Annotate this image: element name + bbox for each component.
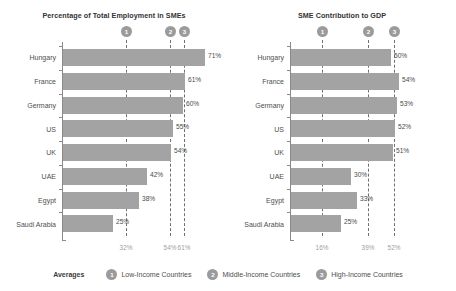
reference-marker-3-icon: 3 <box>389 26 400 37</box>
category-label-text: UAE <box>270 173 284 180</box>
bar-value-label: 33% <box>360 195 373 202</box>
category-label-text: US <box>46 126 56 133</box>
category-label-egypt: Egypt <box>0 189 56 213</box>
bar <box>291 215 341 232</box>
y-axis-tick <box>59 117 62 118</box>
x-tick-label-2: 39% <box>362 244 375 251</box>
bar <box>63 120 173 137</box>
category-label-text: Egypt <box>38 197 56 204</box>
legend-item-low-income: 1 Low-Income Countries <box>106 269 191 280</box>
category-label-text: Germany <box>27 102 56 109</box>
y-axis-tick <box>59 165 62 166</box>
bar <box>63 192 139 209</box>
bar-value-label: 54% <box>402 76 415 83</box>
bar <box>291 97 397 114</box>
reference-marker-3-icon: 3 <box>179 26 190 37</box>
bar-value-label: 30% <box>354 171 367 178</box>
bar-value-label: 52% <box>398 123 411 130</box>
category-label-text: Egypt <box>266 197 284 204</box>
bar-row: UAE30% <box>290 165 440 189</box>
category-label-germany: Germany <box>0 94 56 118</box>
y-axis-tick <box>287 70 290 71</box>
bar-row: Hungary50% <box>290 46 440 70</box>
y-axis-tick <box>59 94 62 95</box>
category-label-saudi-arabia: Saudi Arabia <box>160 212 284 236</box>
category-label-hungary: Hungary <box>160 46 284 70</box>
x-tick-label-2: 54% <box>164 244 177 251</box>
bar <box>291 73 399 90</box>
category-label-text: Germany <box>255 102 284 109</box>
legend-badge-3-icon: 3 <box>316 269 327 280</box>
y-axis-tick <box>59 189 62 190</box>
category-label-uk: UK <box>160 141 284 165</box>
bar-value-label: 38% <box>142 195 155 202</box>
x-tick-label-1: 16% <box>316 244 329 251</box>
category-label-uae: UAE <box>160 165 284 189</box>
y-axis-tick <box>59 46 62 47</box>
y-axis-tick <box>287 212 290 213</box>
category-label-text: UAE <box>42 173 56 180</box>
chart-panel-gdp: SME Contribution to GDP 116%239%352%Hung… <box>228 0 456 258</box>
category-label-germany: Germany <box>160 94 284 118</box>
legend-label-low-income: Low-Income Countries <box>121 271 191 278</box>
legend-title: Averages <box>53 271 84 278</box>
bar-value-label: 25% <box>344 218 357 225</box>
category-label-us: US <box>0 117 56 141</box>
bar <box>291 144 393 161</box>
reference-marker-2-icon: 2 <box>363 26 374 37</box>
category-label-egypt: Egypt <box>160 189 284 213</box>
bar-row: US52% <box>290 117 440 141</box>
category-label-text: Hungary <box>258 54 284 61</box>
legend-items-wrapper: Averages 1 Low-Income Countries 2 Middle… <box>53 269 403 280</box>
legend-item-high-income: 3 High-Income Countries <box>316 269 403 280</box>
y-axis-tick <box>287 165 290 166</box>
axis-baseline-tick <box>62 240 66 241</box>
bar-row: Germany53% <box>290 94 440 118</box>
axis-baseline-tick <box>290 240 294 241</box>
category-label-text: France <box>262 78 284 85</box>
category-label-uk: UK <box>0 141 56 165</box>
bar <box>63 215 113 232</box>
legend-badge-2-icon: 2 <box>207 269 218 280</box>
plot-area-gdp: 116%239%352%Hungary50%France54%Germany53… <box>290 46 440 236</box>
category-label-uae: UAE <box>0 165 56 189</box>
bar-value-label: 50% <box>394 52 407 59</box>
legend-badge-1-icon: 1 <box>106 269 117 280</box>
category-label-text: Saudi Arabia <box>16 221 56 228</box>
category-label-text: UK <box>46 149 56 156</box>
x-tick-label-3: 52% <box>388 244 401 251</box>
bar-row: UK51% <box>290 141 440 165</box>
chart-figure: Percentage of Total Employment in SMEs 1… <box>0 0 456 291</box>
bar <box>291 192 357 209</box>
bar <box>291 168 351 185</box>
y-axis-tick <box>59 212 62 213</box>
chart-panels: Percentage of Total Employment in SMEs 1… <box>0 0 456 258</box>
y-axis-tick <box>287 189 290 190</box>
category-label-text: UK <box>274 149 284 156</box>
bar-value-label: 53% <box>400 100 413 107</box>
y-axis-tick <box>59 141 62 142</box>
panel-title-employment: Percentage of Total Employment in SMEs <box>0 11 228 20</box>
x-tick-label-1: 32% <box>120 244 133 251</box>
category-label-text: France <box>34 78 56 85</box>
reference-marker-2-icon: 2 <box>165 26 176 37</box>
category-label-text: Hungary <box>30 54 56 61</box>
y-axis-tick <box>287 117 290 118</box>
legend-item-middle-income: 2 Middle-Income Countries <box>207 269 300 280</box>
bar-row: Saudi Arabia25% <box>290 212 440 236</box>
category-label-france: France <box>0 70 56 94</box>
reference-marker-1-icon: 1 <box>317 26 328 37</box>
y-axis-tick <box>287 46 290 47</box>
category-label-text: Saudi Arabia <box>244 221 284 228</box>
bar-value-label: 25% <box>116 218 129 225</box>
y-axis-tick <box>287 94 290 95</box>
y-axis-tick <box>59 70 62 71</box>
category-label-text: US <box>274 126 284 133</box>
category-label-hungary: Hungary <box>0 46 56 70</box>
bar-row: Egypt33% <box>290 189 440 213</box>
legend-label-high-income: High-Income Countries <box>331 271 403 278</box>
x-tick-label-3: 61% <box>178 244 191 251</box>
chart-legend: Averages 1 Low-Income Countries 2 Middle… <box>0 258 456 291</box>
bar-row: France54% <box>290 70 440 94</box>
panel-title-gdp: SME Contribution to GDP <box>228 11 456 20</box>
